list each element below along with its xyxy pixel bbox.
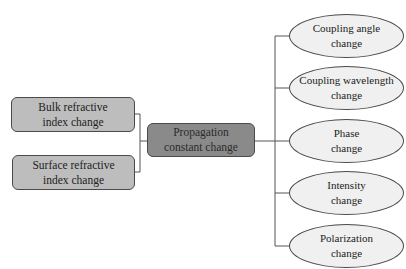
- intensity-line2: change: [331, 193, 362, 208]
- phase-line2: change: [331, 141, 362, 156]
- coupling-angle-line1: Coupling angle: [313, 21, 381, 36]
- coupling-wavelength-line2: change: [331, 88, 362, 103]
- intensity-ellipse: Intensity change: [289, 171, 404, 215]
- intensity-line1: Intensity: [327, 178, 366, 193]
- polarization-line2: change: [331, 246, 362, 261]
- surface-label-line2: index change: [43, 173, 104, 188]
- polarization-ellipse: Polarization change: [289, 224, 404, 268]
- coupling-wavelength-ellipse: Coupling wavelength change: [289, 66, 404, 110]
- bulk-label-line2: index change: [43, 115, 104, 130]
- surface-label-line1: Surface refractive: [32, 158, 114, 173]
- bulk-refractive-index-box: Bulk refractive index change: [11, 97, 135, 132]
- coupling-wavelength-line1: Coupling wavelength: [299, 73, 393, 88]
- propagation-label-line2: constant change: [164, 140, 238, 155]
- phase-line1: Phase: [334, 126, 360, 141]
- coupling-angle-ellipse: Coupling angle change: [289, 14, 404, 58]
- phase-ellipse: Phase change: [289, 119, 404, 163]
- surface-refractive-index-box: Surface refractive index change: [12, 155, 135, 190]
- propagation-constant-box: Propagation constant change: [147, 123, 255, 157]
- propagation-label-line1: Propagation: [173, 125, 229, 140]
- bulk-label-line1: Bulk refractive: [38, 100, 107, 115]
- coupling-angle-line2: change: [331, 36, 362, 51]
- polarization-line1: Polarization: [320, 231, 373, 246]
